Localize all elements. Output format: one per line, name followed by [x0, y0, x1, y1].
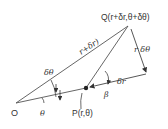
theta-arc [42, 98, 44, 103]
p-arc [81, 93, 82, 109]
polar-diagram: Q(r+δr,θ+δθ) r+δr) r δθ δr δθ θ β O P(r,… [0, 0, 168, 129]
point-p [84, 86, 88, 90]
label-dr: δr [117, 77, 127, 86]
beta-arc [105, 71, 109, 84]
label-origin: O [11, 108, 18, 118]
label-q: Q(r+δr,θ+δθ) [101, 12, 150, 22]
label-theta: θ [40, 109, 45, 118]
label-oq: r+δr) [77, 37, 101, 57]
label-beta: β [103, 90, 109, 99]
label-p: P(r,θ) [72, 108, 93, 118]
label-r-dtheta: r δθ [134, 45, 150, 54]
label-dtheta: δθ [44, 68, 54, 77]
